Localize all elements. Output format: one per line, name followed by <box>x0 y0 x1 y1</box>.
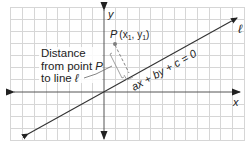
callout-line-3: to line ℓ <box>41 72 79 84</box>
point-p-label: P(x1, y1) <box>110 28 149 41</box>
point-p-dot <box>113 42 117 46</box>
callout-line-1: Distance <box>41 47 86 59</box>
x-axis-label: x <box>232 96 239 108</box>
distance-callout: Distance from point P to line ℓ <box>39 47 112 84</box>
line-l-label: ℓ <box>238 22 243 36</box>
distance-bracket <box>110 53 124 78</box>
perpendicular-segment <box>110 45 133 80</box>
coordinate-diagram: x y ℓ ax + by + c = 0 P(x1, y1) Distance… <box>0 0 250 146</box>
callout-line-2: from point P <box>41 60 103 72</box>
y-axis-label: y <box>107 8 115 20</box>
